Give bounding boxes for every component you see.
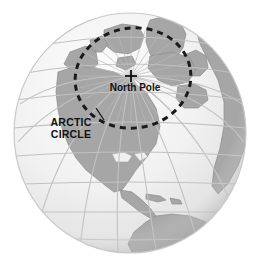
globe-svg: North Pole ARCTIC CIRCLE: [0, 0, 257, 268]
sphere-limb-shading: [14, 13, 246, 253]
arctic-circle-label-line2: CIRCLE: [51, 128, 91, 140]
globe-illustration: North Pole ARCTIC CIRCLE: [0, 0, 257, 268]
north-pole-label: North Pole: [110, 82, 161, 93]
arctic-circle-label-line1: ARCTIC: [51, 116, 92, 128]
